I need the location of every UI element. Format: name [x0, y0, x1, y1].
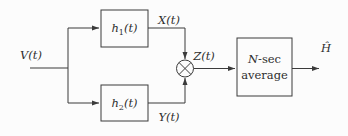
block-diagram-figure: h1(t) h2(t) N-sec average V(t) X(t) Y(t)…: [0, 0, 348, 136]
average-block-label-line2: average: [241, 68, 288, 82]
input-signal-label: V(t): [20, 48, 42, 62]
y-signal-label: Y(t): [158, 110, 179, 124]
x-signal-label: X(t): [157, 13, 180, 27]
output-estimate-label: Ĥ: [320, 41, 332, 55]
h1-filter-block: h1(t): [101, 10, 148, 47]
n-sec-average-block: N-sec average: [237, 38, 292, 96]
wire-h1-to-multiplier: [148, 28, 185, 59]
wire-h2-to-multiplier: [148, 78, 185, 103]
z-signal-label: Z(t): [192, 49, 215, 63]
average-block-box: [237, 38, 292, 96]
h2-block-label: h2(t): [111, 96, 137, 112]
block-diagram-svg: h1(t) h2(t) N-sec average V(t) X(t) Y(t)…: [0, 0, 348, 136]
h1-block-label: h1(t): [111, 21, 137, 37]
h2-filter-block: h2(t): [101, 85, 148, 121]
average-block-label-line1: N-sec: [247, 52, 281, 66]
multiplier-icon: [177, 60, 194, 77]
